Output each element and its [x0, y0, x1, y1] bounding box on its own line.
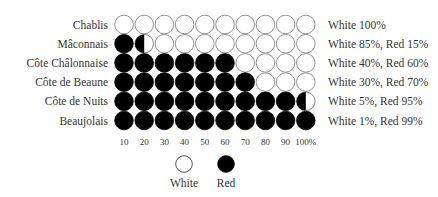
- symbol: [196, 54, 215, 73]
- symbol: [276, 54, 295, 73]
- symbol: [276, 92, 295, 111]
- symbol: [236, 15, 255, 34]
- symbol: [216, 111, 235, 130]
- symbol: [297, 15, 316, 34]
- symbol: [196, 15, 215, 34]
- legend-item-white: White: [170, 156, 198, 189]
- symbol: [115, 15, 134, 34]
- symbol: [276, 111, 295, 130]
- x-tick-label: 30: [160, 137, 170, 147]
- symbol: [296, 92, 315, 111]
- symbol: [135, 15, 154, 34]
- symbol: [297, 54, 316, 73]
- symbol: [256, 92, 275, 111]
- row-labels: ChablisMâconnaisCôte ChâlonnaiseCôte de …: [27, 19, 109, 128]
- symbol: [175, 111, 194, 130]
- symbol: [115, 34, 134, 53]
- row-annotation: White 40%, Red 60%: [328, 57, 429, 70]
- symbol: [155, 73, 174, 92]
- symbol: [297, 111, 316, 130]
- symbol: [196, 111, 215, 130]
- symbol: [115, 92, 134, 111]
- symbol: [297, 34, 316, 53]
- row-label: Côte de Beaune: [35, 76, 108, 88]
- symbol: [175, 92, 194, 111]
- x-tick-label: 50: [200, 137, 210, 147]
- x-tick-label: 60: [221, 137, 231, 147]
- row-label: Mâconnais: [58, 38, 109, 50]
- symbol: [216, 34, 235, 53]
- symbol: [155, 34, 174, 53]
- legend-swatch: [218, 156, 235, 173]
- legend-label: White: [170, 177, 198, 189]
- symbol: [216, 54, 235, 73]
- row-label: Chablis: [73, 19, 109, 31]
- symbol: [236, 54, 255, 73]
- symbol: [115, 111, 134, 130]
- row-annotation: White 30%, Red 70%: [328, 76, 429, 89]
- symbol: [276, 34, 295, 53]
- symbol: [135, 54, 154, 73]
- symbol: [135, 111, 154, 130]
- symbol: [256, 15, 275, 34]
- symbol: [175, 15, 194, 34]
- row-label: Beaujolais: [59, 115, 108, 128]
- row-annotation: White 5%, Red 95%: [328, 95, 423, 108]
- symbol: [155, 15, 174, 34]
- symbol: [256, 73, 275, 92]
- symbol: [135, 92, 154, 111]
- symbol: [175, 73, 194, 92]
- symbol: [236, 34, 255, 53]
- x-tick-label: 10: [120, 137, 130, 147]
- symbol: [297, 73, 316, 92]
- legend: WhiteRed: [170, 156, 236, 189]
- symbol: [276, 15, 295, 34]
- x-tick-label: 70: [241, 137, 251, 147]
- x-tick-label: 80: [261, 137, 271, 147]
- legend-item-red: Red: [217, 156, 236, 189]
- symbol-grid: [115, 15, 315, 130]
- row-annotation: White 85%, Red 15%: [328, 38, 429, 51]
- symbol: [135, 73, 154, 92]
- x-tick-label: 40: [180, 137, 190, 147]
- row-annotations: White 100%White 85%, Red 15%White 40%, R…: [328, 19, 429, 128]
- symbol: [196, 34, 215, 53]
- symbol: [216, 15, 235, 34]
- x-tick-label: 20: [140, 137, 150, 147]
- row-annotation: White 100%: [328, 19, 386, 31]
- symbol: [155, 92, 174, 111]
- symbol: [216, 92, 235, 111]
- symbol: [175, 54, 194, 73]
- symbol: [115, 54, 134, 73]
- legend-swatch: [176, 156, 193, 173]
- symbol: [256, 54, 275, 73]
- symbol: [115, 73, 134, 92]
- symbol: [196, 92, 215, 111]
- symbol: [155, 111, 174, 130]
- x-tick-label: 100%: [295, 137, 317, 147]
- symbol: [135, 34, 154, 53]
- wine-production-pictograph: ChablisMâconnaisCôte ChâlonnaiseCôte de …: [0, 0, 438, 197]
- symbol: [256, 34, 275, 53]
- legend-label: Red: [217, 177, 236, 189]
- symbol: [236, 92, 255, 111]
- symbol: [175, 34, 194, 53]
- x-tick-labels: 102030405060708090100%: [120, 137, 317, 147]
- row-label: Côte Châlonnaise: [27, 57, 108, 69]
- symbol: [256, 111, 275, 130]
- row-label: Côte de Nuits: [45, 95, 109, 107]
- symbol: [236, 111, 255, 130]
- row-annotation: White 1%, Red 99%: [328, 115, 423, 128]
- x-tick-label: 90: [281, 137, 291, 147]
- symbol: [216, 73, 235, 92]
- symbol: [276, 73, 295, 92]
- symbol: [155, 54, 174, 73]
- symbol: [196, 73, 215, 92]
- symbol: [236, 73, 255, 92]
